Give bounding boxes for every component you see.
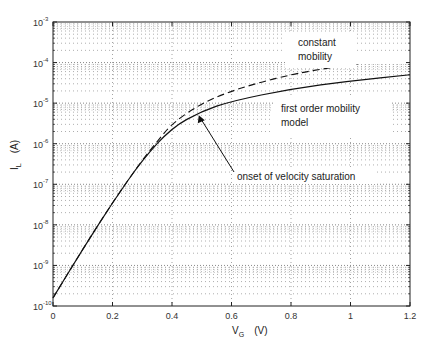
annotations: constantmobilityfirst order mobilitymode… — [198, 32, 409, 184]
y-tick-label: 10-5 — [33, 97, 49, 109]
annotation-constant-mobility: constant — [298, 37, 336, 48]
grid — [53, 22, 410, 306]
arrow-head-icon — [198, 115, 205, 123]
label-box-constant-ext — [355, 52, 409, 64]
x-tick-label: 0.6 — [225, 311, 238, 321]
label-box-first-order — [273, 95, 391, 135]
x-tick-label: 0.8 — [285, 311, 298, 321]
y-tick-label: 10-3 — [33, 16, 49, 28]
y-tick-label: 10-10 — [33, 300, 52, 312]
x-tick-label: 1.2 — [404, 311, 417, 321]
y-tick-label: 10-9 — [33, 259, 49, 271]
x-tick-label: 0 — [50, 311, 55, 321]
iv-chart: constantmobilityfirst order mobilitymode… — [0, 0, 423, 350]
annotation-first-order-mobility: first order mobility — [281, 103, 360, 114]
annotation-first-order-mobility-2: model — [281, 117, 308, 128]
y-tick-label: 10-6 — [33, 138, 49, 150]
y-tick-label: 10-4 — [33, 57, 49, 69]
y-axis-label: IL(A) — [9, 140, 22, 170]
arrow-line — [202, 120, 234, 172]
x-axis-label: VG(V) — [232, 325, 267, 338]
y-tick-label: 10-7 — [33, 178, 49, 190]
x-tick-label: 1 — [348, 311, 353, 321]
x-tick-label: 0.4 — [166, 311, 179, 321]
y-tick-label: 10-8 — [33, 219, 49, 231]
x-tick-label: 0.2 — [106, 311, 119, 321]
annotation-onset-velocity-saturation: onset of velocity saturation — [237, 171, 355, 182]
annotation-constant-mobility-2: mobility — [298, 51, 332, 62]
